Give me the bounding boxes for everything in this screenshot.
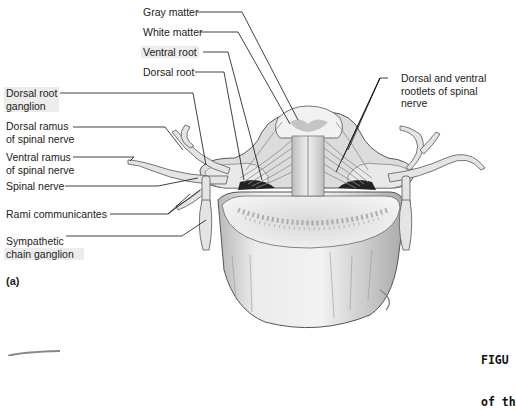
label-rami-communicantes: Rami communicantes — [6, 208, 107, 221]
label-text-line3: nerve — [401, 97, 486, 110]
right-nerves — [388, 126, 485, 250]
label-text-line1: Dorsal ramus — [6, 120, 74, 133]
label-rootlets: Dorsal and ventral rootlets of spinal ne… — [401, 72, 486, 110]
label-text-line2: of spinal nerve — [6, 164, 74, 177]
caption-line2: of th — [481, 395, 516, 409]
label-dorsal-root-ganglion: Dorsal root ganglion — [6, 87, 59, 112]
vertebral-body — [218, 192, 405, 328]
label-text-line1: Dorsal and ventral — [401, 72, 486, 85]
label-text: Dorsal root — [143, 66, 194, 78]
label-spinal-nerve: Spinal nerve — [6, 180, 64, 193]
label-dorsal-root: Dorsal root — [143, 66, 194, 79]
label-text-line1: Ventral ramus — [6, 151, 74, 164]
label-white-matter: White matter — [143, 26, 203, 39]
label-text-line2: ganglion — [4, 100, 59, 113]
label-text-line1: Sympathetic — [6, 235, 84, 248]
label-text-line2: rootlets of spinal — [401, 85, 486, 98]
label-text-line2: of spinal nerve — [6, 133, 74, 146]
label-text: Rami communicantes — [6, 208, 107, 220]
label-text: Spinal nerve — [6, 180, 64, 192]
label-text: Ventral root — [141, 46, 199, 58]
label-text-line2: chain ganglion — [4, 248, 84, 261]
label-ventral-ramus: Ventral ramus of spinal nerve — [6, 151, 74, 176]
label-text-line1: Dorsal root — [4, 87, 59, 100]
label-sympathetic-chain-ganglion: Sympathetic chain ganglion — [6, 235, 84, 260]
panel-label: (a) — [6, 275, 19, 287]
label-text: White matter — [143, 26, 203, 38]
caption-line1: FIGU — [481, 353, 516, 367]
figure-caption: FIGU of th — [481, 325, 516, 410]
left-nerves — [128, 125, 230, 250]
label-text: Gray matter — [143, 6, 198, 18]
label-dorsal-ramus: Dorsal ramus of spinal nerve — [6, 120, 74, 145]
label-ventral-root: Ventral root — [143, 46, 199, 59]
label-gray-matter: Gray matter — [143, 6, 198, 19]
